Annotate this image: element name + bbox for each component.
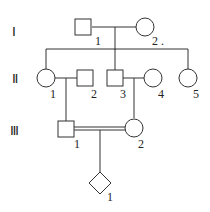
individual-II-5-female bbox=[179, 69, 197, 87]
annotation-dot: . bbox=[161, 34, 164, 48]
individual-II-3-male bbox=[107, 70, 123, 86]
label-II-5: 5 bbox=[193, 87, 199, 101]
generation-label-1: Ⅰ bbox=[12, 24, 16, 39]
label-II-4: 4 bbox=[158, 87, 164, 101]
individual-III-2-female bbox=[125, 119, 143, 137]
pedigree-chart: Ⅰ Ⅱ Ⅲ 1 2 . 1 2 3 4 5 1 2 1 bbox=[0, 0, 210, 212]
label-I-2: 2 bbox=[152, 34, 158, 48]
generation-label-3: Ⅲ bbox=[10, 123, 19, 138]
label-II-2: 2 bbox=[91, 87, 97, 101]
individual-III-1-male bbox=[58, 121, 74, 137]
label-II-3: 3 bbox=[120, 87, 126, 101]
label-IV-1: 1 bbox=[107, 190, 113, 204]
label-I-1: 1 bbox=[95, 34, 101, 48]
generation-label-2: Ⅱ bbox=[12, 71, 18, 86]
label-III-1: 1 bbox=[74, 137, 80, 151]
label-III-2: 2 bbox=[138, 137, 144, 151]
label-II-1: 1 bbox=[50, 87, 56, 101]
individual-II-2-male bbox=[77, 70, 93, 86]
individual-II-4-female bbox=[144, 69, 162, 87]
individual-II-1-female bbox=[37, 69, 55, 87]
individual-I-1-male bbox=[75, 19, 91, 35]
